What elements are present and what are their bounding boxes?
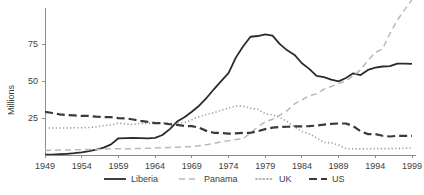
legend-label: US	[332, 174, 345, 184]
y-tick-label: 50	[28, 76, 38, 86]
line-chart: 255075 194919541959196419691974197919841…	[0, 0, 424, 195]
x-tick-label: 1954	[72, 161, 92, 171]
y-axis-ticks: 255075	[28, 39, 45, 123]
legend-label: UK	[279, 174, 292, 184]
legend-item-liberia[interactable]: Liberia	[104, 174, 158, 184]
x-tick-label: 1959	[108, 161, 128, 171]
x-tick-label: 1974	[218, 161, 238, 171]
plot-area: 255075 194919541959196419691974197919841…	[28, 0, 422, 171]
x-tick-label: 1984	[292, 161, 312, 171]
y-tick-label: 25	[28, 113, 38, 123]
x-tick-label: 1949	[35, 161, 55, 171]
legend-item-panama[interactable]: Panama	[179, 174, 238, 184]
x-tick-label: 1969	[182, 161, 202, 171]
legend-item-uk[interactable]: UK	[256, 174, 292, 184]
x-tick-label: 1979	[255, 161, 275, 171]
chart-legend: LiberiaPanamaUKUS	[104, 174, 345, 184]
series-line-liberia	[45, 34, 412, 154]
y-axis-title: Millions	[6, 85, 16, 116]
y-tick-label: 75	[28, 39, 38, 49]
x-tick-label: 1999	[402, 161, 422, 171]
x-axis-ticks: 1949195419591964196919741979198419891994…	[35, 155, 422, 171]
chart-canvas: 255075 194919541959196419691974197919841…	[0, 0, 424, 195]
x-tick-label: 1964	[145, 161, 165, 171]
x-tick-label: 1994	[365, 161, 385, 171]
x-tick-label: 1989	[329, 161, 349, 171]
legend-label: Panama	[204, 174, 238, 184]
series-line-us	[45, 112, 412, 137]
data-series-group	[45, 0, 412, 155]
legend-label: Liberia	[131, 174, 158, 184]
legend-item-us[interactable]: US	[309, 174, 345, 184]
